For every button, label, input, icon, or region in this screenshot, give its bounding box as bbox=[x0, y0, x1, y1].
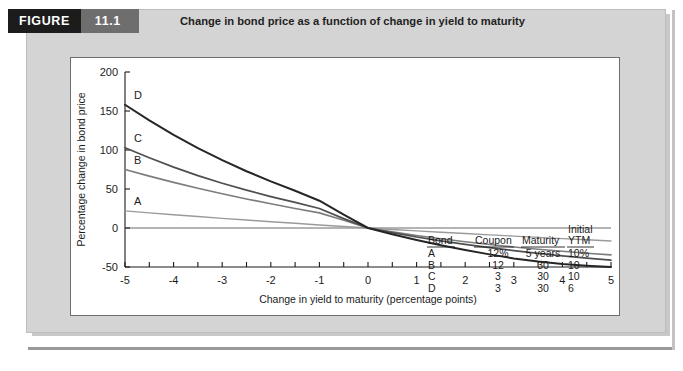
y-tick-label: -50 bbox=[102, 261, 118, 273]
legend-cell: 6 bbox=[568, 282, 574, 294]
plot-area: -50050100150200 -5-4-3-2-1012345 ABCD Bo… bbox=[70, 57, 620, 316]
x-tick-label: 3 bbox=[511, 274, 517, 286]
x-tick-label: 0 bbox=[365, 274, 371, 286]
figure-bottom-rule bbox=[28, 347, 673, 350]
y-tick-label: 50 bbox=[106, 183, 118, 195]
x-tick-label: 5 bbox=[608, 274, 614, 286]
legend-cell: 5 years bbox=[526, 247, 560, 259]
curve-label-c: C bbox=[134, 132, 142, 144]
legend-cell: 30 bbox=[537, 259, 549, 271]
legend-cell: 30 bbox=[537, 282, 549, 294]
bond-price-chart: -50050100150200 -5-4-3-2-1012345 ABCD Bo… bbox=[71, 58, 619, 315]
x-tick-label: -4 bbox=[169, 274, 179, 286]
x-axis-label: Change in yield to maturity (percentage … bbox=[259, 293, 477, 305]
curve-label-a: A bbox=[134, 195, 142, 207]
x-tick-label: 4 bbox=[559, 274, 565, 286]
figure-title: Change in bond price as a function of ch… bbox=[180, 9, 525, 33]
figure-tag-label: FIGURE bbox=[8, 9, 81, 33]
x-tick-label: -5 bbox=[120, 274, 130, 286]
x-tick-label: 2 bbox=[462, 274, 468, 286]
x-tick-label: -3 bbox=[217, 274, 227, 286]
legend-cell: C bbox=[428, 270, 436, 282]
legend-cell: 3 bbox=[495, 282, 501, 294]
x-tick-label: 1 bbox=[414, 274, 420, 286]
y-tick-label: 150 bbox=[100, 105, 118, 117]
y-tick-label: 0 bbox=[112, 222, 118, 234]
curve-labels: ABCD bbox=[134, 89, 142, 207]
legend-cell: A bbox=[428, 247, 435, 259]
legend-cell: 10 bbox=[568, 270, 580, 282]
curve-label-b: B bbox=[134, 154, 141, 166]
y-axis-label: Percentage change in bond price bbox=[75, 92, 87, 246]
legend-cell: 10% bbox=[568, 247, 589, 259]
legend-cell: 3 bbox=[495, 270, 501, 282]
figure-number: 11.1 bbox=[81, 9, 139, 33]
x-tick-label: -2 bbox=[266, 274, 276, 286]
curve-label-d: D bbox=[134, 89, 142, 101]
figure-header: FIGURE 11.1 bbox=[8, 9, 139, 33]
figure-page: FIGURE 11.1 Change in bond price as a fu… bbox=[0, 0, 683, 371]
legend-cell: 10 bbox=[568, 259, 580, 271]
legend-cell: 12 bbox=[492, 259, 504, 271]
legend-cell: 30 bbox=[537, 270, 549, 282]
legend-header-coupon: Coupon bbox=[475, 234, 512, 246]
legend-cell: B bbox=[428, 259, 435, 271]
y-tick-label: 200 bbox=[100, 66, 118, 78]
legend-cell: 12% bbox=[487, 247, 508, 259]
x-tick-label: -1 bbox=[315, 274, 325, 286]
legend-header-bond: Bond bbox=[428, 234, 453, 246]
legend-header-ytm: YTM bbox=[568, 234, 590, 246]
y-tick-label: 100 bbox=[100, 144, 118, 156]
legend-cell: D bbox=[428, 282, 436, 294]
figure-right-rule bbox=[672, 10, 675, 350]
legend-header-maturity: Maturity bbox=[522, 234, 560, 246]
